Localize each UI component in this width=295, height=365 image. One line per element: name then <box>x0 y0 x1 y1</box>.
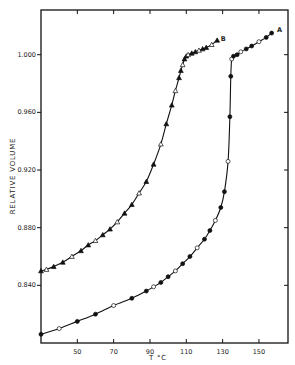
circle-marker <box>235 53 239 57</box>
circle-marker <box>228 115 232 119</box>
triangle-marker <box>178 68 183 72</box>
circle-marker <box>188 255 192 259</box>
curve-label-A: A <box>277 26 282 34</box>
circle-marker <box>173 269 177 273</box>
x-tick-label: 150 <box>253 348 265 356</box>
series-line-A <box>41 33 272 334</box>
y-tick-label: 0.840 <box>17 281 36 289</box>
y-tick-label: 1.000 <box>17 51 36 59</box>
circle-marker <box>57 327 61 331</box>
circle-marker <box>257 40 261 44</box>
x-axis-ticks: 507090110130150 <box>73 10 265 356</box>
circle-marker <box>264 35 268 39</box>
triangle-marker <box>144 179 149 183</box>
y-tick-label: 0.880 <box>17 224 36 232</box>
triangle-marker <box>215 38 220 42</box>
triangle-marker <box>180 62 185 66</box>
triangle-marker <box>69 254 74 258</box>
circle-marker <box>244 47 248 51</box>
circle-marker <box>208 229 212 233</box>
circle-marker <box>130 296 134 300</box>
circle-marker <box>229 74 233 78</box>
data-series <box>39 31 274 336</box>
circle-marker <box>112 304 116 308</box>
circle-marker <box>39 332 43 336</box>
circle-marker <box>219 205 223 209</box>
circle-marker <box>75 319 79 323</box>
circle-marker <box>213 218 217 222</box>
circle-marker <box>226 159 230 163</box>
circle-marker <box>222 190 226 194</box>
plot-frame <box>41 10 288 343</box>
circle-marker <box>181 262 185 266</box>
y-axis-label: RELATIVE VOLUME <box>9 138 17 215</box>
circle-marker <box>144 289 148 293</box>
y-tick-label: 0.920 <box>17 166 36 174</box>
y-axis-ticks: 0.8400.8800.9200.9601.000 <box>17 51 288 290</box>
circle-marker <box>195 246 199 250</box>
circle-marker <box>166 275 170 279</box>
triangle-marker <box>86 243 91 247</box>
x-tick-label: 110 <box>180 348 192 356</box>
triangle-marker <box>177 75 182 79</box>
triangle-marker <box>158 142 163 146</box>
circle-marker <box>239 50 243 54</box>
x-tick-label: 50 <box>73 348 81 356</box>
relative-volume-chart: 507090110130150 0.8400.8800.9200.9601.00… <box>0 0 295 365</box>
triangle-marker <box>173 88 178 92</box>
circle-marker <box>93 312 97 316</box>
curve-label-B: B <box>221 35 226 43</box>
circle-marker <box>159 280 163 284</box>
circle-marker <box>250 44 254 48</box>
x-tick-label: 70 <box>110 348 118 356</box>
circle-marker <box>202 237 206 241</box>
circle-marker <box>152 285 156 289</box>
triangle-marker <box>169 103 174 107</box>
x-tick-label: 130 <box>216 348 228 356</box>
triangle-marker <box>164 121 169 125</box>
triangle-marker <box>60 260 65 264</box>
y-tick-label: 0.960 <box>17 108 36 116</box>
circle-marker <box>270 31 274 35</box>
series-line-B <box>41 40 217 271</box>
triangle-marker <box>151 162 156 166</box>
x-axis-label: T °C <box>148 354 167 362</box>
